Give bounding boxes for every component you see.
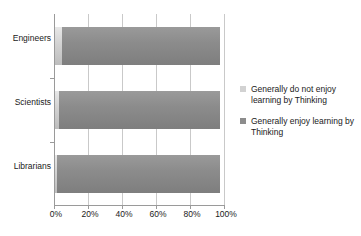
ytick-2 [50, 142, 54, 143]
legend-item-do-not-enjoy[interactable]: Generally do not enjoy learning by Think… [240, 84, 361, 106]
x-axis-line [54, 205, 225, 206]
bar-segment-enjoy [62, 27, 220, 65]
ytick-1 [50, 78, 54, 79]
x-axis-tick-label-20: 20% [81, 209, 98, 220]
x-axis-tick-label-0: 0% [50, 209, 62, 220]
chart-legend: Generally do not enjoy learning by Think… [240, 84, 361, 148]
legend-item-enjoy[interactable]: Generally enjoy learning by Thinking [240, 116, 361, 138]
legend-swatch-icon [240, 86, 246, 92]
x-axis-tick-labels: 0% 20% 40% 60% 80% 100% [0, 209, 280, 223]
legend-item-label: Generally enjoy learning by Thinking [251, 116, 359, 138]
bar-segment-enjoy [59, 91, 220, 129]
y-axis-label-engineers: Engineers [1, 33, 51, 43]
bar-segment-do-not-enjoy [55, 27, 62, 65]
x-axis-tick-label-60: 60% [149, 209, 166, 220]
plot-area [54, 14, 224, 205]
legend-item-label: Generally do not enjoy learning by Think… [251, 84, 359, 106]
x-axis-tick-label-80: 80% [183, 209, 200, 220]
x-axis-tick-label-100: 100% [215, 209, 237, 220]
stacked-bar-chart: Engineers Scientists Librarians [0, 0, 361, 236]
gridline-100 [224, 14, 225, 205]
x-axis-tick-label-40: 40% [115, 209, 132, 220]
y-axis-label-librarians: Librarians [1, 161, 51, 171]
y-axis-label-scientists: Scientists [1, 97, 51, 107]
y-axis-category-labels: Engineers Scientists Librarians [0, 14, 51, 205]
legend-swatch-icon [240, 118, 246, 124]
bar-segment-enjoy [57, 155, 220, 193]
